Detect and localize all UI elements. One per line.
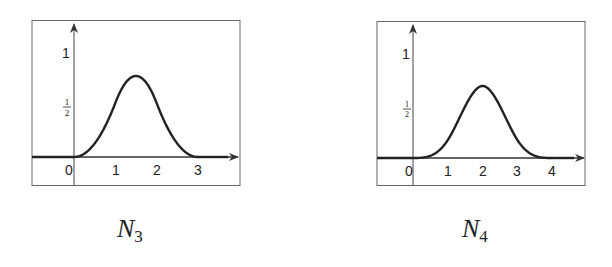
x-tick-1: 1 <box>444 163 452 179</box>
caption-n4: N4 <box>462 214 488 247</box>
caption-n3: N3 <box>117 214 143 247</box>
curve-n4 <box>413 86 552 158</box>
x-tick-3: 3 <box>513 163 521 179</box>
caption-letter: N <box>462 214 479 243</box>
x-tick-4: 4 <box>548 163 556 179</box>
caption-subscript: 4 <box>479 227 488 246</box>
y-label-1: 1 <box>402 46 410 62</box>
y-label-half-num: 1 <box>405 100 409 109</box>
y-label-1: 1 <box>62 45 70 61</box>
chart-n3: 1 1 2 0 1 2 3 <box>32 21 240 186</box>
x-tick-0: 0 <box>65 162 73 178</box>
caption-subscript: 3 <box>134 227 143 246</box>
x-tick-2: 2 <box>479 163 487 179</box>
y-label-half-den: 2 <box>65 108 70 118</box>
x-tick-3: 3 <box>194 162 202 178</box>
chart-n4: 1 1 2 0 1 2 3 4 <box>377 22 585 186</box>
curve-n3 <box>74 76 198 157</box>
figure-canvas: 1 1 2 0 1 2 3 1 1 2 0 1 2 3 4 <box>0 0 612 267</box>
x-tick-2: 2 <box>153 162 161 178</box>
caption-letter: N <box>117 214 134 243</box>
x-tick-1: 1 <box>112 162 120 178</box>
y-label-half-den: 2 <box>405 110 409 119</box>
y-label-half-num: 1 <box>65 97 70 107</box>
x-tick-0: 0 <box>405 163 413 179</box>
